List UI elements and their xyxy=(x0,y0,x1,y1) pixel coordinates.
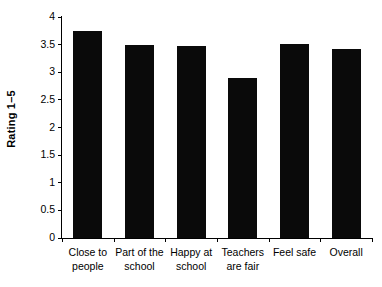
bar-slot xyxy=(320,17,372,238)
bar[interactable] xyxy=(332,49,361,238)
x-axis-category-label: Happy at school xyxy=(165,246,217,273)
x-axis-category-label: Feel safe xyxy=(269,246,321,260)
bar-chart: Rating 1–5 00.511.522.533.54 Close to pe… xyxy=(0,0,382,287)
x-axis-category-label: Close to people xyxy=(62,246,114,273)
bar[interactable] xyxy=(125,45,154,238)
x-axis-category-label: Teachers are fair xyxy=(217,246,269,273)
bar-slot xyxy=(269,17,321,238)
bar[interactable] xyxy=(177,46,206,238)
x-axis-tick xyxy=(165,238,166,242)
x-axis-tick xyxy=(114,238,115,242)
y-axis-tick-label: 1 xyxy=(49,176,55,189)
bar[interactable] xyxy=(73,31,102,238)
x-axis-tick xyxy=(269,238,270,242)
bar-slot xyxy=(165,17,217,238)
y-axis-tick-label: 2.5 xyxy=(40,93,55,106)
x-axis-tick xyxy=(372,238,373,242)
y-axis-tick-label: 0 xyxy=(49,231,55,244)
bar-slot xyxy=(62,17,114,238)
bar[interactable] xyxy=(280,44,309,238)
plot-area xyxy=(62,17,372,238)
y-axis-tick-label: 3 xyxy=(49,65,55,78)
x-axis-category-label: Overall xyxy=(320,246,372,260)
x-axis-category-label: Part of the school xyxy=(114,246,166,273)
bar-slot xyxy=(114,17,166,238)
x-axis-tick xyxy=(62,238,63,242)
x-axis-tick xyxy=(217,238,218,242)
y-axis-tick-label: 2 xyxy=(49,121,55,134)
y-axis-tick-label: 1.5 xyxy=(40,148,55,161)
bar-slot xyxy=(217,17,269,238)
y-axis-tick-label: 3.5 xyxy=(40,38,55,51)
bar[interactable] xyxy=(228,78,257,238)
x-axis-tick xyxy=(320,238,321,242)
y-axis-tick-label: 4 xyxy=(49,10,55,23)
y-axis-ticks: 00.511.522.533.54 xyxy=(0,0,62,287)
y-axis-tick-label: 0.5 xyxy=(40,203,55,216)
